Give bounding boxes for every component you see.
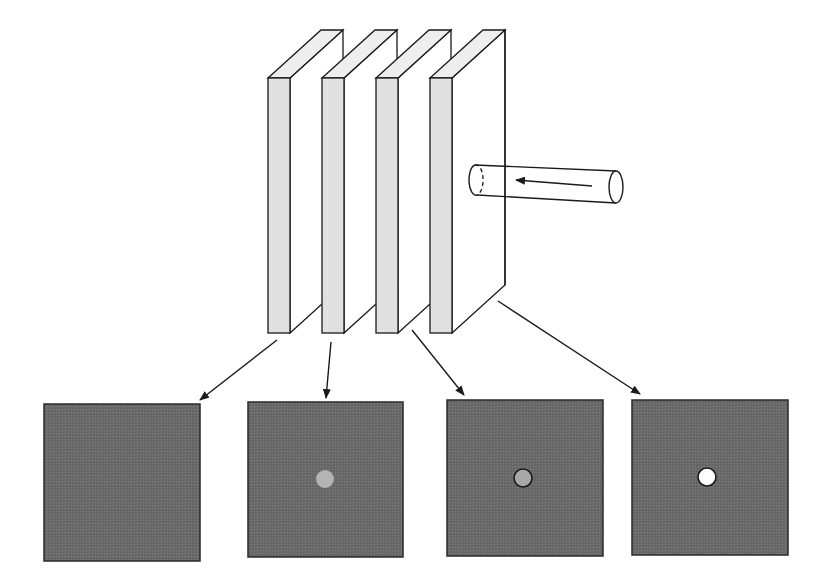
plate-front-face bbox=[268, 78, 290, 333]
plate-stack-diagram bbox=[0, 0, 818, 582]
cross-section-panel-1 bbox=[44, 404, 200, 561]
plate-front-face bbox=[376, 78, 398, 333]
arrow-plate-4-to-panel bbox=[498, 301, 640, 394]
cross-section-panel-3 bbox=[447, 400, 603, 556]
arrow-plate-3-to-panel bbox=[412, 330, 464, 395]
beam-direction-arrow bbox=[516, 180, 592, 186]
beam-source-ellipse bbox=[609, 171, 623, 203]
beam-spot bbox=[316, 470, 334, 488]
arrow-plate-1-to-panel bbox=[200, 340, 277, 400]
plate-side-face bbox=[452, 30, 505, 333]
beam-spot bbox=[698, 468, 716, 486]
cross-section-panel-4 bbox=[632, 400, 788, 555]
cross-section-panels bbox=[44, 400, 788, 561]
plate-front-face bbox=[322, 78, 344, 333]
plate-4 bbox=[430, 30, 505, 333]
panel-background bbox=[44, 404, 200, 561]
cross-section-panel-2 bbox=[248, 402, 403, 557]
plate-front-face bbox=[430, 78, 452, 333]
arrow-plate-2-to-panel bbox=[326, 342, 331, 398]
beam-spot bbox=[514, 469, 532, 487]
projection-arrows bbox=[200, 301, 640, 400]
